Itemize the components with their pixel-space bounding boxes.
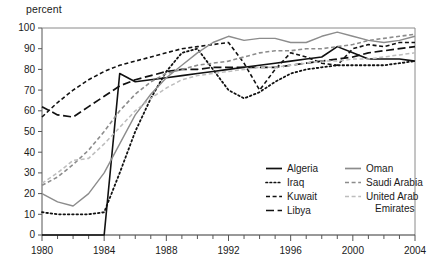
x-axis-tick-label: 1996 — [280, 245, 303, 256]
y-axis-tick-label: 0 — [29, 229, 35, 240]
x-axis-tick-label: 1992 — [217, 245, 240, 256]
legend-label: Iraq — [287, 177, 304, 188]
legend-item-algeria: Algeria — [266, 163, 319, 174]
y-axis-tick-label: 20 — [24, 188, 36, 199]
y-axis-tick-label: 70 — [24, 85, 36, 96]
line-chart-svg: 0102030405060708090100198019841988199219… — [0, 0, 434, 270]
legend-label: Emirates — [375, 203, 414, 214]
x-axis-tick-label: 1980 — [31, 245, 54, 256]
y-axis-tick-label: 100 — [18, 22, 35, 33]
y-axis-tick-label: 90 — [24, 43, 36, 54]
series-line-saudi-arabia — [42, 34, 415, 185]
x-axis-tick-label: 1988 — [155, 245, 178, 256]
series-line-united-arab-emirates — [42, 53, 415, 183]
y-axis-tick-label: 80 — [24, 64, 36, 75]
legend-item-kuwait: Kuwait — [266, 191, 317, 202]
legend-item-oman: Oman — [345, 163, 393, 174]
legend-item-libya: Libya — [266, 205, 311, 216]
legend-label: Saudi Arabia — [366, 177, 423, 188]
y-axis-tick-label: 40 — [24, 147, 36, 158]
legend-item-united-arab-emirates: United ArabEmirates — [345, 191, 419, 214]
legend-label: Libya — [287, 205, 311, 216]
series-layer — [42, 32, 415, 235]
x-axis-tick-label: 1984 — [93, 245, 116, 256]
series-line-algeria — [42, 47, 415, 235]
series-line-oman — [42, 32, 415, 206]
legend-label: United Arab — [366, 191, 419, 202]
legend-label: Kuwait — [287, 191, 317, 202]
y-axis-tick-label: 10 — [24, 209, 36, 220]
legend-label: Algeria — [287, 163, 319, 174]
x-axis-tick-label: 2004 — [404, 245, 427, 256]
legend-label: Oman — [366, 163, 393, 174]
legend-layer: AlgeriaIraqKuwaitLibyaOmanSaudi ArabiaUn… — [266, 163, 423, 216]
y-axis-tick-label: 50 — [24, 126, 36, 137]
series-line-libya — [42, 47, 415, 117]
series-line-iraq — [42, 49, 415, 215]
chart-container: percent 01020304050607080901001980198419… — [0, 0, 434, 270]
series-line-kuwait — [42, 42, 415, 117]
legend-item-iraq: Iraq — [266, 177, 304, 188]
x-axis-tick-label: 2000 — [342, 245, 365, 256]
legend-item-saudi-arabia: Saudi Arabia — [345, 177, 423, 188]
y-axis-tick-label: 60 — [24, 105, 36, 116]
y-axis-tick-label: 30 — [24, 167, 36, 178]
